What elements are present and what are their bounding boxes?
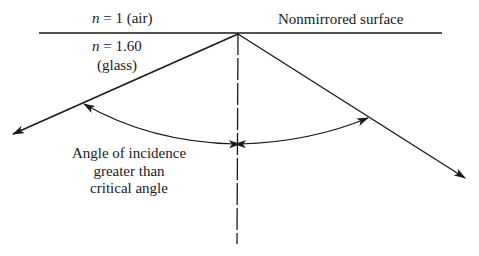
- angle-label-line-1: Angle of incidence: [72, 145, 186, 161]
- incidence-angle-arc-left: [84, 104, 235, 144]
- upper-medium-label: n = 1 (air): [92, 10, 153, 27]
- reflection-angle-arc-right: [240, 118, 368, 144]
- lower-medium-index-label: n = 1.60: [92, 38, 142, 54]
- angle-label-line-2: greater than: [93, 163, 165, 179]
- reflected-ray: [238, 34, 465, 178]
- surface-label: Nonmirrored surface: [278, 11, 404, 27]
- normal-dashed-line: [237, 33, 238, 244]
- tir-diagram: n = 1 (air) n = 1.60 (glass) Nonmirrored…: [0, 0, 479, 256]
- angle-label-line-3: critical angle: [90, 180, 168, 196]
- lower-medium-name-label: (glass): [97, 57, 137, 74]
